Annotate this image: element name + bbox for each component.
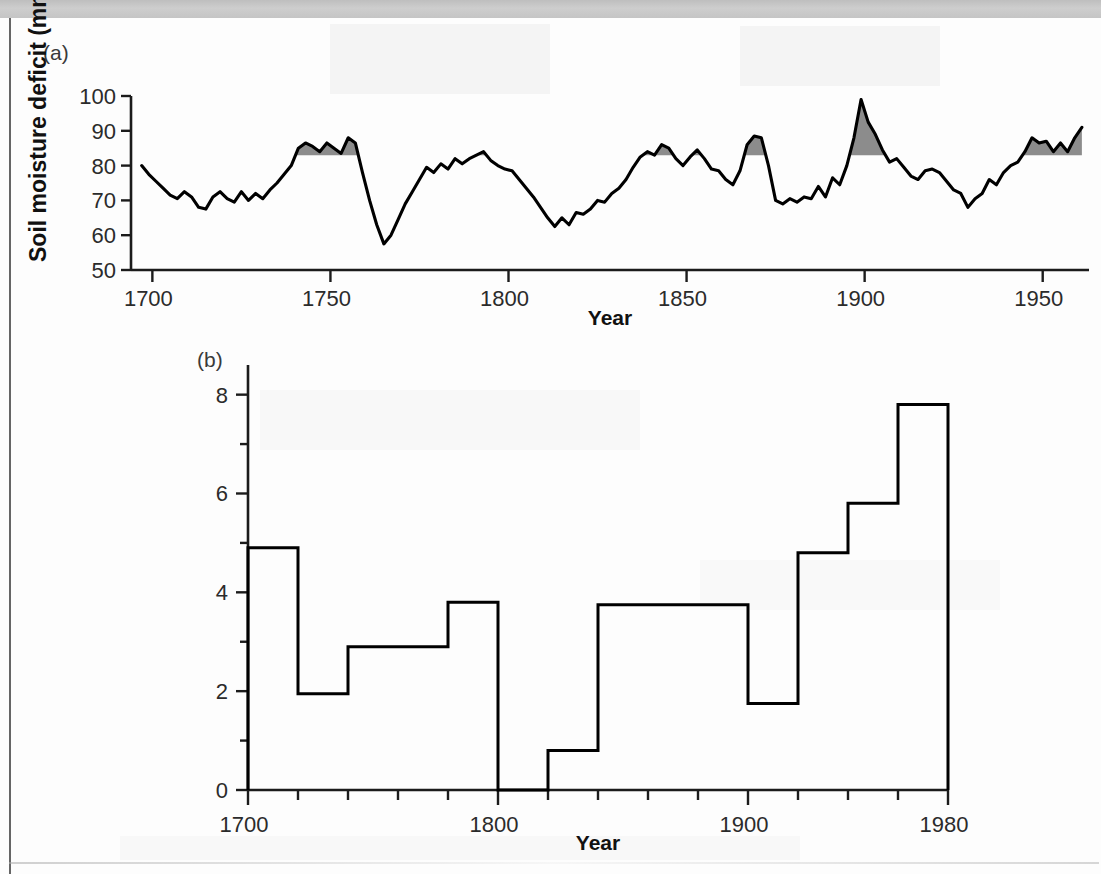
panel-a-x-axis-title: Year (588, 306, 632, 329)
panel-a-y-tick-label: 70 (92, 188, 116, 213)
panel-a-x-tick-label: 1700 (124, 286, 173, 311)
panel-b-chart: (b) 02468 1700180019001980 Year (0, 345, 1101, 874)
panel-b-y-tick-label: 0 (216, 778, 228, 803)
figure-page: (a) Soil moisture deficit (mm) 506070809… (0, 0, 1101, 874)
panel-a-y-tick-label: 50 (92, 258, 116, 283)
panel-a-y-tick-label: 80 (92, 154, 116, 179)
panel-a-x-tick-label: 1750 (302, 286, 351, 311)
panel-b-x-tick-label: 1700 (220, 812, 269, 837)
panel-b-y-tick-label: 2 (216, 679, 228, 704)
panel-a-x-tick-label: 1800 (480, 286, 529, 311)
panel-b-y-tick-label: 8 (216, 383, 228, 408)
panel-a-chart: (a) Soil moisture deficit (mm) 506070809… (0, 0, 1101, 345)
panel-a-x-axis: 170017501800185019001950 (124, 270, 1089, 311)
panel-a-exceedance-shading (296, 138, 359, 155)
panel-b-x-tick-label: 1900 (720, 812, 769, 837)
panel-b-x-axis-title: Year (576, 831, 620, 854)
panel-b-series (248, 405, 948, 790)
panel-b-x-tick-label: 1980 (920, 812, 969, 837)
panel-a-x-tick-label: 1900 (836, 286, 885, 311)
panel-a-y-tick-label: 90 (92, 119, 116, 144)
panel-b-x-tick-label: 1800 (470, 812, 519, 837)
panel-a-series (142, 99, 1082, 243)
panel-a-y-axis: 5060708090100 (79, 84, 131, 283)
panel-a-x-tick-label: 1850 (658, 286, 707, 311)
panel-b-y-tick-label: 6 (216, 481, 228, 506)
panel-b-x-axis: 1700180019001980 (220, 790, 969, 837)
panel-b-y-axis: 02468 (216, 365, 248, 803)
panel-b-y-tick-label: 4 (216, 580, 228, 605)
panel-a-x-tick-label: 1950 (1014, 286, 1063, 311)
panel-a-y-tick-label: 60 (92, 223, 116, 248)
panel-a-y-tick-label: 100 (79, 84, 116, 109)
panel-b-label: (b) (197, 348, 223, 371)
panel-a-y-axis-title: Soil moisture deficit (mm) (25, 0, 51, 262)
